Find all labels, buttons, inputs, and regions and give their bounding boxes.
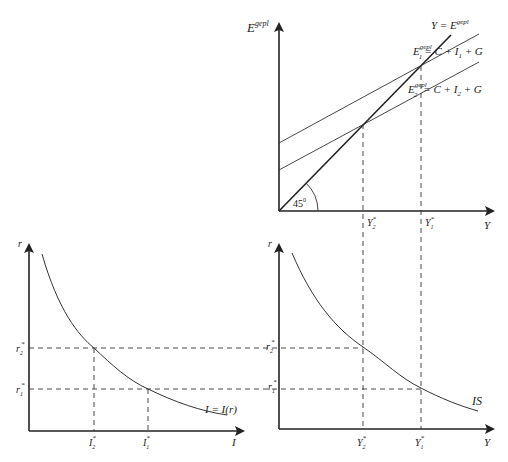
expenditure-line-1-label: Egepl1= C + I1 + G [412, 43, 483, 61]
investment-tick-i1: I1* [142, 434, 150, 450]
investment-curve-label: I = I(r) [204, 403, 237, 416]
is-curve-panel: r Y IS r2* r1* Y2* Y1* [266, 238, 493, 450]
line-45-label: Y = Egepl [431, 18, 469, 31]
is-x-axis-label: Y [484, 436, 492, 448]
investment-x-axis-label: I [231, 436, 237, 448]
is-tick-r1: r1* [268, 378, 277, 394]
investment-tick-r2: r2* [16, 340, 25, 356]
investment-y-axis-label: r [18, 238, 22, 249]
expenditure-line-2 [279, 62, 479, 170]
expenditure-line-2-label: Egepl2= C + I2 + G [407, 81, 482, 99]
top-x-axis-label: Y [484, 219, 492, 231]
keynesian-cross-panel: Egepl Y Y = Egepl Egepl1= C + I1 + G Ege… [246, 18, 493, 429]
is-curve-label: IS [471, 394, 482, 408]
top-tick-y1: Y1* [425, 215, 435, 230]
angle-label: 450 [293, 197, 306, 209]
investment-panel: r I I = I(r) r2* r1* I2* I1* [16, 238, 421, 450]
is-curve [292, 253, 478, 411]
is-tick-r2: r2* [266, 338, 275, 354]
investment-tick-r1: r1* [16, 381, 25, 397]
is-tick-y1: Y1* [415, 434, 425, 450]
is-y-axis-label: r [268, 238, 272, 249]
line-45-degree [279, 35, 451, 211]
angle-arc [306, 183, 318, 211]
investment-curve [42, 254, 227, 415]
investment-tick-i2: I2* [88, 434, 96, 450]
is-tick-y2: Y2* [357, 434, 367, 450]
top-y-axis-label: Egepl [246, 19, 270, 35]
top-tick-y2: Y2* [367, 215, 377, 230]
is-curve-derivation-diagram: Egepl Y Y = Egepl Egepl1= C + I1 + G Ege… [0, 0, 508, 462]
